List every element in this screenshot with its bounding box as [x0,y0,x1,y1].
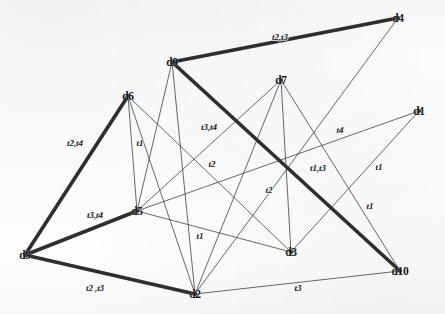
graph-edge-label-e11: t1 [376,162,383,172]
graph-edge-label-e9: t3,t4 [201,122,217,132]
graph-edge-label-e1: t2,t3 [272,32,288,42]
graph-figure: d4d9d7d6d1d5d3d9d2d10 t2,t3t2,t4t3,t4t2 … [0,0,445,314]
graph-edge [25,211,137,255]
graph-edges-layer [0,0,445,314]
graph-edge-label-e4: t2 ,t3 [86,283,104,293]
graph-node-label-d9[interactable]: d9 [166,56,178,68]
edges-group [25,18,419,294]
graph-node-label-d4[interactable]: d4 [392,12,404,24]
graph-edge [25,255,195,294]
graph-edge [25,96,128,255]
graph-edge-label-e7: t2 [266,185,273,195]
graph-node-label-d1[interactable]: d1 [413,105,425,117]
graph-node-label-d7[interactable]: d7 [275,74,287,86]
graph-edge [281,80,400,271]
graph-edge [128,96,137,211]
graph-edge-label-e5: t1,t3 [310,163,326,173]
graph-edge-label-e8: t2 [209,159,216,169]
graph-edge-label-e6: t1 [137,138,144,148]
graph-node-label-d6[interactable]: d6 [122,90,134,102]
graph-node-label-d3[interactable]: d3 [285,246,297,258]
graph-edge-label-e2: t2,t4 [67,138,83,148]
graph-edge [128,96,291,252]
graph-node-label-d2[interactable]: d2 [189,288,201,300]
graph-edge-label-e12: t1 [367,201,374,211]
graph-edge [137,80,281,211]
graph-node-label-d10[interactable]: d10 [392,265,409,277]
graph-edge-label-e14: t3 [295,283,302,293]
graph-edge-label-e13: t1 [197,231,204,241]
graph-edge [137,111,419,211]
graph-node-label-d5[interactable]: d5 [131,205,143,217]
graph-node-label-d0[interactable]: d9 [19,249,31,261]
graph-edge [137,62,172,211]
graph-edge-label-e10: t4 [337,125,344,135]
graph-edge-label-e3: t3,t4 [87,210,103,220]
